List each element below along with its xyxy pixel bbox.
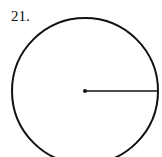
circle-diagram [0,0,162,157]
circle [12,18,158,157]
center-point [83,89,87,93]
